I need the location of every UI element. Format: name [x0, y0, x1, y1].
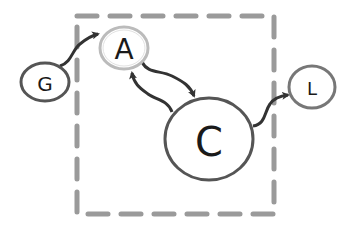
- edge-c-to-a: [132, 73, 172, 112]
- node-a-label: A: [114, 33, 133, 66]
- node-c[interactable]: C: [165, 98, 253, 180]
- edge-a-to-c: [142, 62, 194, 96]
- node-g[interactable]: G: [21, 63, 69, 101]
- node-l-label: L: [307, 78, 317, 99]
- node-c-label: C: [195, 119, 223, 165]
- node-a[interactable]: A: [100, 27, 148, 69]
- edge-c-to-l: [253, 95, 288, 126]
- diagram-canvas: G A C L: [0, 0, 354, 230]
- node-g-label: G: [37, 72, 53, 96]
- node-l[interactable]: L: [289, 66, 335, 108]
